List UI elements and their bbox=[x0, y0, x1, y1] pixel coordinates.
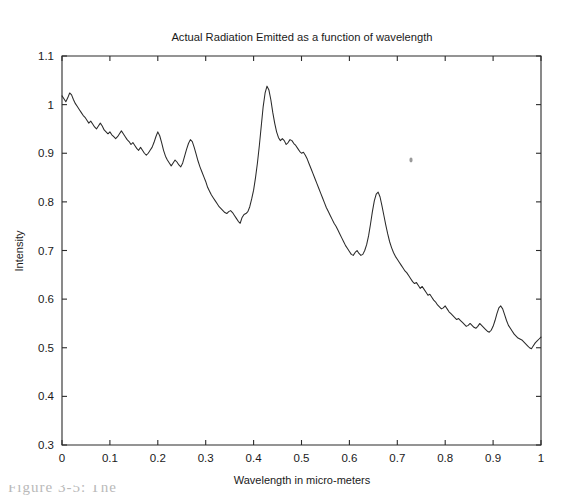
y-tick-label: 0.4 bbox=[38, 390, 55, 402]
chart-background bbox=[0, 0, 566, 497]
figure-container: Actual Radiation Emitted as a function o… bbox=[0, 0, 566, 497]
x-tick-label: 0.1 bbox=[102, 452, 118, 464]
x-tick-label: 0.2 bbox=[150, 452, 166, 464]
y-tick-label: 1 bbox=[48, 99, 54, 111]
x-tick-label: 0.8 bbox=[437, 452, 453, 464]
page-caption-strip: Figure 3-5: The bbox=[0, 485, 566, 497]
x-tick-label: 0.6 bbox=[341, 452, 357, 464]
x-tick-label: 0.3 bbox=[198, 452, 214, 464]
y-axis-label: Intensity bbox=[13, 230, 25, 271]
x-tick-label: 0.7 bbox=[389, 452, 405, 464]
caption-partial-text: Figure 3-5: The bbox=[8, 485, 117, 496]
x-tick-label: 0.4 bbox=[246, 452, 263, 464]
radiation-spectrum-chart: Actual Radiation Emitted as a function o… bbox=[0, 0, 566, 497]
chart-title: Actual Radiation Emitted as a function o… bbox=[171, 31, 432, 43]
y-tick-label: 0.7 bbox=[38, 245, 54, 257]
y-tick-label: 0.6 bbox=[38, 293, 54, 305]
scan-speck-artifact bbox=[409, 158, 412, 163]
y-tick-label: 0.8 bbox=[38, 196, 54, 208]
x-tick-label: 0 bbox=[59, 452, 65, 464]
x-tick-label: 0.9 bbox=[485, 452, 501, 464]
x-tick-label: 0.5 bbox=[294, 452, 310, 464]
y-tick-label: 0.5 bbox=[38, 342, 54, 354]
y-tick-label: 0.9 bbox=[38, 147, 54, 159]
x-tick-label: 1 bbox=[538, 452, 544, 464]
y-tick-label: 1.1 bbox=[38, 50, 54, 62]
y-tick-label: 0.3 bbox=[38, 439, 54, 451]
